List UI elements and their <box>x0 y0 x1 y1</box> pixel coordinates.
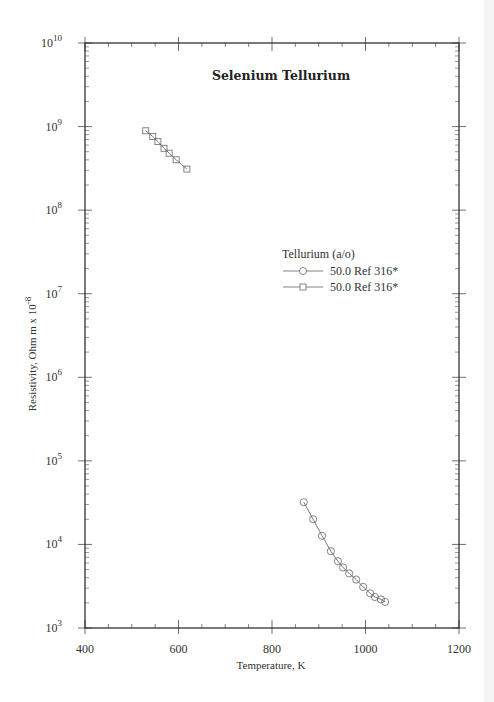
y-tick-label: 105 <box>46 451 63 468</box>
x-tick-label: 1000 <box>354 642 378 656</box>
x-tick-label: 800 <box>263 642 281 656</box>
y-tick-labels: 1031041051061071081091010 <box>41 33 63 635</box>
legend-label-circle: 50.0 Ref 316* <box>330 264 398 278</box>
legend-entry-square: 50.0 Ref 316* <box>283 280 398 294</box>
chart: 40060080010001200 1031041051061071081091… <box>0 0 494 702</box>
y-tick-base: 10 <box>46 454 58 468</box>
ticks <box>78 37 466 634</box>
y-tick-exponent: 9 <box>58 117 63 127</box>
series-circle <box>300 499 389 606</box>
y-tick-base: 10 <box>46 203 58 217</box>
y-tick-exponent: 10 <box>53 33 63 43</box>
y-tick-base: 10 <box>41 36 53 50</box>
y-tick-base: 10 <box>46 120 58 134</box>
legend-marker-circle <box>300 268 307 275</box>
y-tick-label: 108 <box>46 200 63 217</box>
y-tick-label: 1010 <box>41 33 63 50</box>
legend-entry-circle: 50.0 Ref 316* <box>283 264 398 278</box>
y-tick-base: 10 <box>46 621 58 635</box>
y-axis-title: Resistivity, Ohm m x 10-8 <box>23 296 38 411</box>
legend-marker-square <box>300 284 306 290</box>
y-tick-exponent: 4 <box>58 534 63 544</box>
legend: Tellurium (a/o) 50.0 Ref 316* 50.0 Ref 3… <box>282 247 398 294</box>
x-tick-label: 400 <box>76 642 94 656</box>
series-group <box>143 128 389 606</box>
x-tick-labels: 40060080010001200 <box>76 642 471 656</box>
y-axis-title-exponent: -8 <box>23 296 33 304</box>
y-tick-exponent: 8 <box>58 200 63 210</box>
legend-label-square: 50.0 Ref 316* <box>330 280 398 294</box>
series-square <box>143 128 190 172</box>
y-tick-base: 10 <box>46 370 58 384</box>
y-tick-label: 109 <box>46 117 63 134</box>
plot-frame <box>85 43 459 628</box>
x-tick-label: 600 <box>170 642 188 656</box>
y-tick-base: 10 <box>46 287 58 301</box>
y-tick-exponent: 7 <box>58 284 63 294</box>
y-tick-base: 10 <box>46 537 58 551</box>
y-tick-exponent: 3 <box>58 618 63 628</box>
y-axis-title-text: Resistivity, Ohm m x 10 <box>26 304 38 412</box>
legend-title: Tellurium (a/o) <box>282 247 355 261</box>
y-tick-label: 107 <box>46 284 63 301</box>
x-tick-label: 1200 <box>447 642 471 656</box>
y-tick-exponent: 5 <box>58 451 63 461</box>
y-tick-label: 103 <box>46 618 63 635</box>
axes <box>85 43 459 628</box>
y-tick-label: 104 <box>46 534 63 551</box>
x-axis-title: Temperature, K <box>237 659 306 671</box>
chart-title: Selenium Tellurium <box>212 68 350 83</box>
y-axis-title-group: Resistivity, Ohm m x 10-8 <box>23 296 38 411</box>
y-tick-label: 106 <box>46 367 63 384</box>
y-tick-exponent: 6 <box>58 367 63 377</box>
